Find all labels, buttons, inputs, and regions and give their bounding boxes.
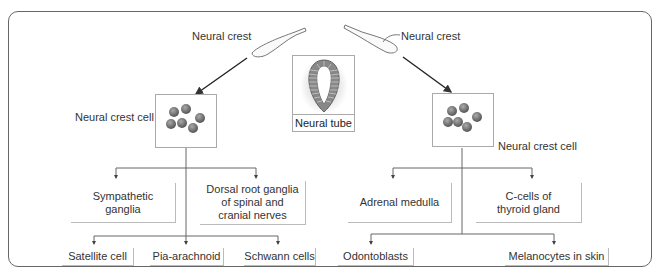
left-neural-crest-label: Neural crest (192, 30, 251, 43)
derivative-schwann-cells: Schwann cells (244, 248, 316, 266)
cell-cluster-icon (433, 94, 493, 146)
right-neural-crest-label: Neural crest (401, 30, 460, 43)
derivative-dorsal-root-ganglia: Dorsal root ganglia of spinal and crania… (200, 181, 306, 225)
derivative-c-cells-thyroid: C-cells of thyroid gland (476, 183, 582, 223)
derivative-pia-arachnoid: Pia-arachnoid (150, 248, 224, 266)
derivative-satellite-cell: Satellite cell (62, 248, 134, 266)
right-neural-crest-cell-box (432, 93, 494, 147)
cell-cluster-icon (156, 95, 216, 147)
derivative-adrenal-medulla: Adrenal medulla (348, 183, 452, 223)
neural-tube-box: Neural tube (292, 55, 355, 132)
left-neural-crest-icon (252, 28, 306, 57)
left-neural-crest-cell-box (155, 94, 217, 148)
left-neural-crest-cell-label: Neural crest cell (75, 111, 154, 124)
derivative-odontoblasts: Odontoblasts (338, 248, 414, 266)
neural-tube-label: Neural tube (293, 114, 354, 131)
right-neural-crest-icon (344, 25, 400, 53)
derivative-sympathetic-ganglia: Sympathetic ganglia (71, 183, 176, 223)
right-neural-crest-cell-label: Neural crest cell (498, 140, 577, 153)
neural-tube-icon (293, 56, 354, 114)
derivative-melanocytes: Melanocytes in skin (505, 248, 609, 266)
